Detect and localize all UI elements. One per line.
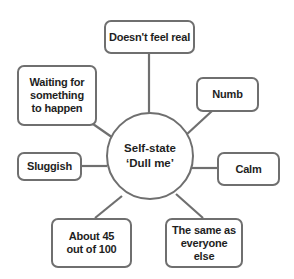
connector-upper-right [186, 111, 212, 135]
node-label: About 45 out of 100 [63, 230, 120, 256]
node-about-45: About 45 out of 100 [51, 218, 132, 268]
node-label: Doesn't feel real [109, 31, 190, 44]
connector-lower-right [176, 194, 203, 218]
node-label: Numb [212, 88, 242, 101]
center-self-state: Self-state ‘Dull me’ [106, 112, 194, 200]
node-label: Sluggish [27, 160, 72, 173]
node-same-as-everyone: The same as everyone else [165, 218, 243, 268]
node-doesnt-feel-real: Doesn't feel real [104, 20, 195, 54]
node-label: The same as everyone else [171, 224, 237, 263]
node-calm: Calm [217, 152, 280, 186]
connector-lower-left [95, 196, 122, 218]
node-waiting-for-something: Waiting for something to happen [17, 65, 97, 126]
node-sluggish: Sluggish [17, 152, 82, 181]
node-label: Calm [235, 163, 261, 176]
center-line-1: Self-state [124, 141, 176, 156]
node-label: Waiting for something to happen [25, 76, 89, 115]
node-numb: Numb [196, 77, 259, 112]
center-line-2: ‘Dull me’ [126, 156, 174, 171]
